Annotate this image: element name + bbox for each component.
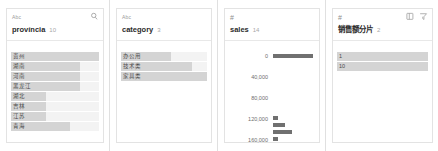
histogram-axis: 0 40,000 80,000 120,000 160,000: [229, 52, 271, 138]
value-bar-list: 办公用 技术类 家具类: [121, 52, 207, 81]
list-item[interactable]: 湖北: [11, 92, 99, 101]
axis-tick: 80,000: [251, 95, 268, 101]
field-card-header: # 销售额分片: [333, 9, 432, 41]
number-type-indicator: #: [338, 14, 342, 21]
value-bar-list: 1 10: [337, 52, 428, 71]
value-label: 青海: [13, 122, 25, 131]
list-item[interactable]: 贵州: [11, 52, 99, 61]
field-card-header: Abc província 10: [7, 9, 103, 41]
text-type-indicator: Abc: [12, 14, 21, 20]
field-name-row: sales 14: [230, 25, 314, 34]
list-item[interactable]: 1: [337, 52, 428, 61]
axis-tick: 0: [265, 53, 268, 59]
field-card-body: 办公用 技术类 家具类: [117, 42, 211, 142]
histogram-bar[interactable]: [273, 123, 285, 127]
field-name: 销售额分片: [338, 25, 373, 34]
field-card-inner: Abc category 3 办公用 技术类: [116, 8, 212, 143]
value-bar-list: 贵州 湖南 河南 黑龙江: [11, 52, 99, 131]
histogram-bar[interactable]: [273, 130, 292, 134]
field-name: sales: [230, 25, 249, 34]
field-card-body: 0 40,000 80,000 120,000 160,000: [225, 42, 319, 142]
value-label: 吉林: [13, 102, 25, 111]
field-name: category: [122, 25, 153, 34]
field-type-row: #: [230, 12, 314, 22]
field-card-sales[interactable]: # sales 14 0 40,000 80,000 120,000 160,0…: [218, 0, 326, 151]
value-label: 湖北: [13, 92, 25, 101]
list-item[interactable]: 技术类: [121, 62, 207, 71]
histogram-bar[interactable]: [273, 54, 313, 58]
field-name-row: 销售额分片 2: [338, 25, 427, 34]
field-distinct-count: 10: [49, 26, 56, 34]
value-bar: [337, 52, 428, 61]
text-type-indicator: Abc: [122, 14, 131, 20]
histogram-bar[interactable]: [273, 137, 278, 141]
histogram-plot: [273, 52, 313, 138]
axis-tick: 160,000: [248, 137, 268, 143]
list-item[interactable]: 江苏: [11, 112, 99, 121]
list-item[interactable]: 青海: [11, 122, 99, 131]
value-label: 家具类: [123, 72, 141, 81]
search-icon[interactable]: [90, 12, 99, 21]
axis-tick: 40,000: [251, 74, 268, 80]
value-label: 技术类: [123, 62, 141, 71]
field-type-row: Abc: [122, 12, 206, 22]
value-label: 湖南: [13, 62, 25, 71]
value-label: 贵州: [13, 52, 25, 61]
field-card-inner: # sales 14 0 40,000 80,000 120,000 160,0…: [224, 8, 320, 143]
field-type-row: Abc: [12, 12, 98, 22]
field-name-row: category 3: [122, 25, 206, 34]
list-item[interactable]: 10: [337, 62, 428, 71]
field-card-category[interactable]: Abc category 3 办公用 技术类: [110, 0, 218, 151]
field-distinct-count: 2: [377, 26, 380, 34]
table-icon[interactable]: [406, 12, 415, 21]
list-item[interactable]: 河南: [11, 72, 99, 81]
field-card-provincia[interactable]: Abc província 10: [0, 0, 110, 151]
number-type-indicator: #: [230, 14, 234, 21]
field-card-inner: Abc província 10: [6, 8, 104, 143]
list-item[interactable]: 办公用: [121, 52, 207, 61]
value-bar: [337, 62, 428, 71]
list-item[interactable]: 黑龙江: [11, 82, 99, 91]
field-card-inner: # 销售额分片: [332, 8, 433, 143]
field-distinct-count: 14: [253, 26, 260, 34]
axis-tick: 120,000: [248, 116, 268, 122]
field-header-icons: [406, 12, 428, 21]
value-label: 河南: [13, 72, 25, 81]
field-name: província: [12, 25, 45, 34]
histogram-bar[interactable]: [273, 116, 278, 120]
value-label: 办公用: [123, 52, 141, 61]
field-card-body: 1 10: [333, 42, 432, 142]
field-distinct-count: 3: [157, 26, 160, 34]
field-card-header: # sales 14: [225, 9, 319, 41]
field-card-sales-bucket[interactable]: # 销售额分片: [326, 0, 438, 151]
list-item[interactable]: 家具类: [121, 72, 207, 81]
list-item[interactable]: 吉林: [11, 102, 99, 111]
value-label: 黑龙江: [13, 82, 31, 91]
histogram: 0 40,000 80,000 120,000 160,000: [229, 52, 315, 138]
field-card-body: 贵州 湖南 河南 黑龙江: [7, 42, 103, 142]
field-header-icons: [90, 12, 99, 21]
field-card-header: Abc category 3: [117, 9, 211, 41]
list-item[interactable]: 湖南: [11, 62, 99, 71]
value-label: 江苏: [13, 112, 25, 121]
value-label: 10: [339, 62, 345, 71]
data-profiler-panel: Abc província 10: [0, 0, 438, 151]
filter-icon[interactable]: [419, 12, 428, 21]
value-label: 1: [339, 52, 342, 61]
field-name-row: província 10: [12, 25, 98, 34]
